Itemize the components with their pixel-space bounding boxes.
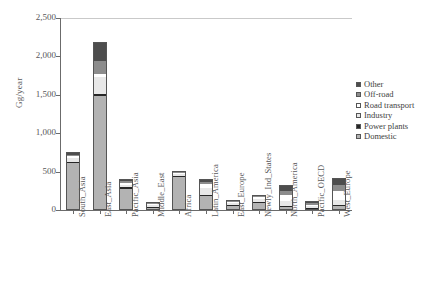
x-tick-mark xyxy=(126,211,127,214)
plot-top-rule xyxy=(60,18,352,19)
legend-swatch-icon xyxy=(356,113,361,118)
legend-label: Domestic xyxy=(364,132,397,141)
x-tick-label: Pacific_OECD xyxy=(316,165,326,217)
legend-label: Industry xyxy=(364,111,392,120)
x-tick-mark xyxy=(73,211,74,214)
x-tick-label: East_Asia xyxy=(103,182,113,217)
bar-segment-other xyxy=(93,42,107,60)
x-tick-label: Newly_Ind_States xyxy=(263,153,273,217)
x-tick-mark xyxy=(339,211,340,214)
x-tick-mark xyxy=(153,211,154,214)
chart-legend: OtherOff-roadRoad transportIndustryPower… xyxy=(356,79,414,142)
x-tick-mark xyxy=(259,211,260,214)
x-tick-mark xyxy=(312,211,313,214)
x-tick-label: North_America xyxy=(289,162,299,217)
x-tick-mark xyxy=(100,211,101,214)
y-tick-label: 2,500 xyxy=(4,13,56,22)
y-tick-mark xyxy=(56,133,60,134)
x-tick-label: West_Europe xyxy=(342,170,352,217)
legend-item: Other xyxy=(356,79,414,89)
legend-item: Domestic xyxy=(356,132,414,142)
y-tick-label: 500 xyxy=(4,167,56,176)
legend-swatch-icon xyxy=(356,124,361,129)
x-tick-label: Middle_East xyxy=(156,172,166,217)
legend-label: Off-road xyxy=(364,90,394,99)
y-tick-mark xyxy=(56,172,60,173)
plot-area: 05001,0001,5002,0002,500 South_AsiaEast_… xyxy=(60,18,352,211)
y-tick-label: 1,500 xyxy=(4,90,56,99)
y-tick-label: 1,000 xyxy=(4,128,56,137)
y-tick-mark xyxy=(56,95,60,96)
legend-swatch-icon xyxy=(356,103,361,108)
x-tick-label: South_Asia xyxy=(77,176,87,217)
y-tick-mark xyxy=(56,18,60,19)
y-tick-label: 2,000 xyxy=(4,51,56,60)
x-tick-label: Pacific_Asia xyxy=(130,172,140,217)
legend-item: Road transport xyxy=(356,100,414,110)
legend-swatch-icon xyxy=(356,82,361,87)
x-tick-mark xyxy=(206,211,207,214)
legend-item: Off-road xyxy=(356,90,414,100)
y-tick-label: 0 xyxy=(4,205,56,214)
legend-item: Industry xyxy=(356,111,414,121)
bar-segment-off-road xyxy=(93,61,107,74)
x-tick-label: Latin_America xyxy=(210,164,220,217)
legend-label: Road transport xyxy=(364,101,414,110)
chart-figure: Gg/year 05001,0001,5002,0002,500 South_A… xyxy=(0,0,432,306)
x-tick-mark xyxy=(179,211,180,214)
x-tick-mark xyxy=(233,211,234,214)
legend-label: Other xyxy=(364,80,383,89)
legend-label: Power plants xyxy=(364,122,408,131)
x-tick-mark xyxy=(286,211,287,214)
x-tick-label: Africa xyxy=(183,195,193,217)
legend-item: Power plants xyxy=(356,121,414,131)
legend-swatch-icon xyxy=(356,134,361,139)
y-axis-line xyxy=(60,18,61,211)
bar-segment-industry xyxy=(93,77,107,94)
y-tick-mark xyxy=(56,210,60,211)
y-tick-mark xyxy=(56,56,60,57)
legend-swatch-icon xyxy=(356,92,361,97)
x-tick-label: East_Europe xyxy=(236,172,246,217)
